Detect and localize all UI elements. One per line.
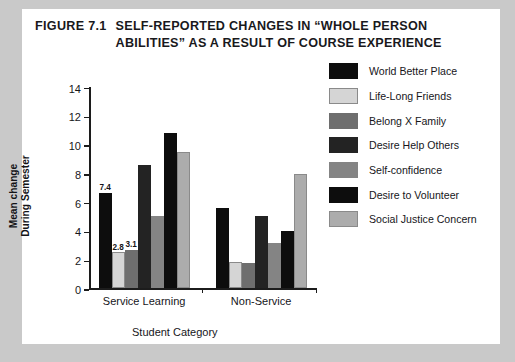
bar [177,152,190,289]
legend-item: Belong X Family [329,108,497,133]
legend-item: Life-Long Friends [329,84,497,109]
y-axis-tick [84,174,89,175]
y-axis-tick-label: 6 [75,198,81,210]
y-axis-title: Mean change During Semester [8,155,33,237]
legend-item: World Better Place [329,59,497,84]
y-axis-tick [84,117,89,118]
bar [151,216,164,288]
bar: 7.4 [99,193,112,288]
y-axis-tick-label: 2 [75,255,81,267]
legend-color-swatch [329,162,358,178]
legend-item: Self-confidence [329,158,497,183]
legend-item-label: World Better Place [369,65,457,77]
bar-value-label: 3.1 [125,240,136,249]
bar [294,174,307,288]
legend-color-swatch [329,88,358,104]
y-axis-tick [84,145,89,146]
legend-color-swatch [329,187,358,203]
legend-item-label: Self-confidence [369,164,442,176]
bar [281,231,294,289]
figure-panel: FIGURE 7.1 SELF-REPORTED CHANGES IN “WHO… [22,9,500,344]
bar [242,263,255,288]
y-axis-tick-label: 12 [69,111,81,123]
legend-item: Desire to Volunteer [329,182,497,207]
legend-color-swatch [329,113,358,129]
y-axis-tick [84,289,89,290]
chart-axes: 02468101214 7.42.83.1 Service LearningNo… [89,87,317,290]
y-axis-tick-label: 10 [69,140,81,152]
y-axis-title-line-1: Mean change [8,155,20,237]
page-title: SELF-REPORTED CHANGES IN “WHOLE PERSON A… [116,18,475,51]
y-axis-tick [84,203,89,204]
bar [138,165,151,289]
legend-item-label: Belong X Family [369,115,446,127]
bar [216,208,229,289]
legend-item: Social Justice Concern [329,207,497,232]
chart-legend: World Better PlaceLife-Long FriendsBelon… [329,59,497,232]
bar [255,216,268,288]
legend-item-label: Life-Long Friends [369,90,451,102]
y-axis-tick [84,88,89,89]
bar: 3.1 [125,250,138,289]
x-axis-category-label: Service Learning [103,295,186,307]
legend-item-label: Social Justice Concern [369,213,477,225]
x-axis-category-label: Non-Service [231,295,292,307]
bar-value-label: 2.8 [112,243,123,252]
figure-page: FIGURE 7.1 SELF-REPORTED CHANGES IN “WHO… [0,0,515,362]
y-axis-tick-label: 8 [75,169,81,181]
bar [229,262,242,289]
y-axis-title-line-2: During Semester [20,155,32,237]
chart-plot-area: Mean change During Semester 02468101214 … [58,83,358,308]
bar-group-container: 7.42.83.1 [91,87,317,288]
legend-item-label: Desire Help Others [369,139,459,151]
bar [268,243,281,288]
legend-color-swatch [329,63,358,79]
y-axis-tick [84,232,89,233]
x-axis-tick [316,288,317,293]
x-axis-tick [202,288,203,293]
y-axis-tick-label: 4 [75,226,81,238]
figure-number-label: FIGURE 7.1 [35,18,116,35]
y-axis-tick [84,261,89,262]
bar: 2.8 [112,252,125,288]
figure-title-block: FIGURE 7.1 SELF-REPORTED CHANGES IN “WHO… [35,18,475,51]
legend-item-label: Desire to Volunteer [369,189,459,201]
y-axis-tick-label: 14 [69,83,81,95]
legend-item: Desire Help Others [329,133,497,158]
y-axis-tick-label: 0 [75,284,81,296]
legend-color-swatch [329,137,358,153]
bar-value-label: 7.4 [99,183,110,192]
legend-color-swatch [329,211,358,227]
x-axis-title: Student Category [132,326,218,338]
bar [164,133,177,288]
